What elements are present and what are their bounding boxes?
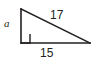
label-hypotenuse: 17 — [50, 9, 63, 21]
label-vertical-leg: a — [4, 18, 10, 29]
label-base: 15 — [40, 47, 53, 59]
right-triangle-figure: a 17 15 — [0, 0, 96, 67]
